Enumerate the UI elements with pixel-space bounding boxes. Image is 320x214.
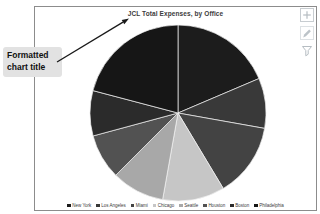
legend-item: Houston [203, 203, 225, 208]
legend-label: Boston [235, 203, 249, 208]
chart-toolbar [299, 9, 314, 59]
legend-swatch-icon [230, 204, 234, 208]
legend: New YorkLos AngelesMiamiChicagoSeattleHo… [35, 203, 316, 208]
legend-swatch-icon [153, 204, 157, 208]
filter-icon [300, 44, 314, 61]
legend-item: Boston [230, 203, 249, 208]
legend-label: New York [72, 203, 91, 208]
legend-label: Seattle [184, 203, 198, 208]
legend-item: Chicago [153, 203, 175, 208]
legend-item: Miami [131, 203, 148, 208]
add-icon [300, 8, 314, 25]
legend-item: New York [67, 203, 91, 208]
chart-panel: JCL Total Expenses, by Office [34, 6, 317, 211]
edit-button[interactable] [300, 27, 314, 41]
legend-label: Miami [136, 203, 148, 208]
legend-item: Philadelphia [254, 203, 284, 208]
legend-swatch-icon [96, 204, 100, 208]
filter-button[interactable] [300, 45, 314, 59]
legend-item: Seattle [179, 203, 198, 208]
legend-label: Los Angeles [101, 203, 126, 208]
legend-label: Chicago [158, 203, 175, 208]
legend-label: Houston [208, 203, 225, 208]
pencil-icon [300, 26, 314, 43]
callout-formatted-chart-title: Formatted chart title [3, 47, 62, 77]
legend-swatch-icon [179, 204, 183, 208]
legend-swatch-icon [67, 204, 71, 208]
legend-label: Philadelphia [259, 203, 284, 208]
pie-chart [88, 23, 268, 203]
pie-chart-area [88, 23, 268, 203]
chart-title: JCL Total Expenses, by Office [35, 10, 316, 17]
legend-swatch-icon [131, 204, 135, 208]
legend-item: Los Angeles [96, 203, 126, 208]
legend-swatch-icon [203, 204, 207, 208]
legend-swatch-icon [254, 204, 258, 208]
add-button[interactable] [300, 9, 314, 23]
